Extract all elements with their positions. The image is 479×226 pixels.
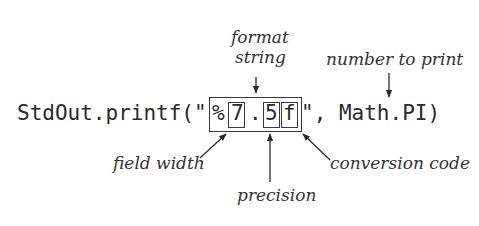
arrow-conversion-code [303, 134, 330, 160]
arrow-field-width [200, 134, 226, 158]
arrows-layer [0, 0, 479, 226]
printf-format-diagram: format string number to print StdOut.pri… [0, 0, 479, 226]
